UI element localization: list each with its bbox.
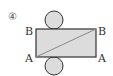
label-bottom-left: A: [24, 52, 34, 65]
top-circle: [45, 11, 63, 29]
label-top-left: B: [25, 25, 33, 38]
label-top-right: B: [98, 25, 106, 38]
net-diagram: ④ B B A A: [0, 0, 113, 76]
bottom-circle: [45, 57, 63, 75]
label-bottom-right: A: [97, 52, 107, 65]
figure-number: ④: [8, 11, 17, 22]
